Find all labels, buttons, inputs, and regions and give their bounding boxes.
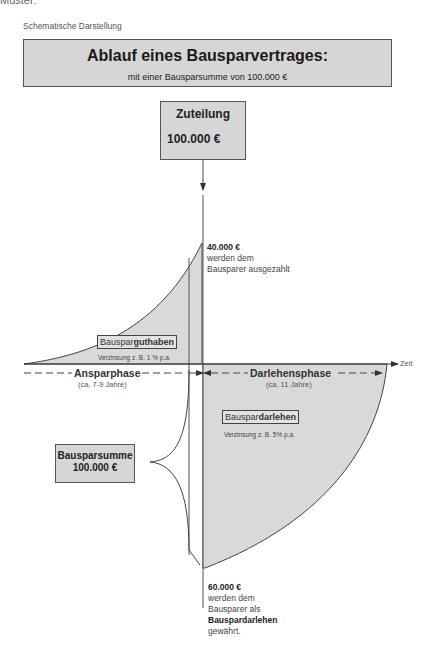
darlehen-bold: darlehen [259, 412, 297, 422]
bausparsumme-box: Bausparsumme 100.000 € [55, 444, 135, 483]
ansparphase-duration: (ca. 7-9 Jahre) [78, 380, 127, 389]
cropped-heading: Muster: [0, 0, 37, 6]
title-box: Ablauf eines Bausparvertrages: mit einer… [23, 39, 392, 87]
darlehen-rate: Verzinsung z. B. 5% p.a. [224, 431, 295, 438]
guthaben-bold: guthaben [134, 337, 175, 347]
time-label: Zeit [400, 359, 413, 368]
payout-amount: 40.000 € [207, 242, 240, 252]
guthaben-label: Bausparguthaben [97, 335, 177, 349]
darlehen-area [203, 364, 387, 568]
darlehen-prefix: Bauspar [225, 412, 259, 422]
loan-line4: gewährt. [208, 626, 241, 636]
darlehensphase-duration: (ca. 11 Jahre) [266, 380, 312, 389]
zuteilung-title: Zuteilung [161, 107, 245, 121]
ansparphase-label: Ansparphase [74, 367, 141, 379]
bausparsumme-value: 100.000 € [56, 462, 134, 474]
loan-line2: Bausparer als [208, 604, 260, 614]
loan-line1: werden dem [208, 593, 255, 603]
loan-amount: 60.000 € [208, 582, 241, 592]
zuteilung-box: Zuteilung 100.000 € [160, 101, 246, 160]
subtitle: Schematische Darstellung [23, 21, 122, 31]
darlehen-label: Bauspardarlehen [222, 410, 299, 424]
loan-line3: Bauspardarlehen [208, 615, 277, 625]
payout-line1: werden dem [207, 253, 254, 263]
diagram-graphics [0, 0, 436, 652]
title-main: Ablauf eines Bausparvertrages: [24, 47, 391, 65]
zuteilung-value: 100.000 € [167, 132, 245, 146]
bausparsumme-title: Bausparsumme [56, 450, 134, 462]
brace [150, 370, 200, 565]
payout-line2: Bausparer ausgezahlt [207, 264, 290, 274]
darlehensphase-label: Darlehensphase [250, 367, 331, 379]
payout-note: 40.000 € werden dem Bausparer ausgezahlt [207, 242, 290, 275]
loan-note: 60.000 € werden dem Bausparer als Bauspa… [208, 582, 277, 637]
guthaben-rate: Verzinsung z. B. 1 % p.a. [98, 354, 171, 361]
title-sub: mit einer Bausparsumme von 100.000 € [24, 72, 391, 82]
guthaben-prefix: Bauspar [100, 337, 134, 347]
